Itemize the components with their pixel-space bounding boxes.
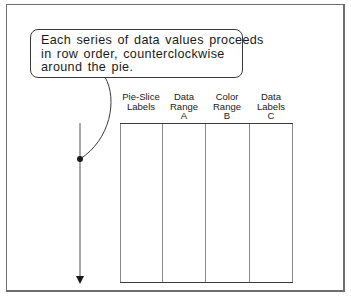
callout-box: Each series of data values proceeds in r… — [30, 29, 243, 78]
callout-text-line: around the pie. — [41, 61, 236, 75]
table-outline — [121, 124, 293, 283]
arrow-down-icon — [76, 276, 84, 284]
callout-text-line: in row order, counterclockwise — [41, 48, 236, 62]
series-table — [120, 124, 293, 283]
callout-text-line: Each series of data values proceeds — [41, 34, 236, 48]
connector-dot — [77, 156, 83, 162]
callout-connector — [80, 77, 111, 159]
